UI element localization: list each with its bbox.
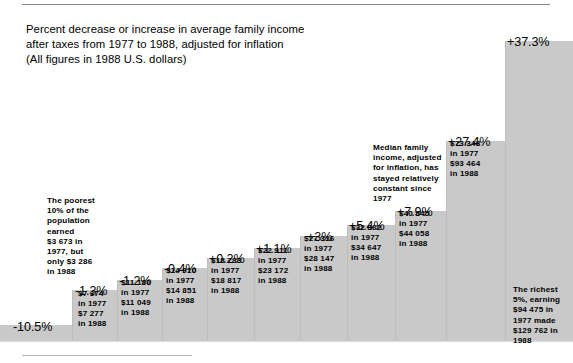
values-decile-4-line-4: in 1988 xyxy=(166,296,196,306)
pct-label-richest-5pct: +37.3% xyxy=(507,35,549,49)
annotation-richest-line-6: 1988 xyxy=(513,336,569,346)
values-decile-6-line-1: $22 911 xyxy=(258,246,288,256)
values-decile-7-line-4: in 1988 xyxy=(304,264,334,274)
annotation-poorest-line-7: only $3 286 xyxy=(47,257,109,267)
values-decile-8-line-2: in 1977 xyxy=(351,233,381,243)
chart-title-line-1: Percent decrease or increase in average … xyxy=(26,22,446,37)
annotation-median-line-4: stayed relatively xyxy=(373,174,459,184)
values-decile-9-line-1: $40 845 xyxy=(399,209,429,219)
values-decile-6-line-4: in 1988 xyxy=(258,276,288,286)
values-decile-2-line-1: $7 374 xyxy=(78,289,107,299)
top-divider xyxy=(22,4,550,5)
values-decile-3-line-1: $11 180 xyxy=(121,278,151,288)
annotation-median-line-6: 1977 xyxy=(373,194,459,204)
plot-baseline xyxy=(0,341,573,342)
values-decile-7-line-2: in 1977 xyxy=(304,244,334,254)
values-decile-6-line-3: $23 172 xyxy=(258,266,288,276)
values-decile-5-line-2: in 1977 xyxy=(211,266,241,276)
values-decile-8-line-1: $32 862 xyxy=(351,223,381,233)
annotation-poorest-line-8: in 1988 xyxy=(47,267,109,277)
values-decile-4: $14 910 in 1977 $14 851 in 1988 xyxy=(166,266,196,306)
values-decile-2-line-2: in 1977 xyxy=(78,299,107,309)
values-decile-8: $32 862 in 1977 $34 647 in 1988 xyxy=(351,223,381,263)
annotation-median-line-5: constant since xyxy=(373,184,459,194)
values-decile-4-line-1: $14 910 xyxy=(166,266,196,276)
values-decile-5-line-3: $18 817 xyxy=(211,276,241,286)
annotation-richest-5pct: The richest 5%, earning $94 475 in 1977 … xyxy=(513,285,569,346)
chart-title-line-3: (All figures in 1988 U.S. dollars) xyxy=(26,52,446,67)
values-decile-4-line-2: in 1977 xyxy=(166,276,196,286)
annotation-median-line-1: Median family xyxy=(373,143,459,153)
values-decile-6: $22 911 in 1977 $23 172 in 1988 xyxy=(258,246,288,286)
chart-title-line-2: after taxes from 1977 to 1988, adjusted … xyxy=(26,37,446,52)
annotation-poorest-line-3: population xyxy=(47,216,109,226)
values-decile-4-line-3: $14 851 xyxy=(166,286,196,296)
values-decile-5: $18 783 in 1977 $18 817 in 1988 xyxy=(211,256,241,296)
bottom-divider xyxy=(22,355,192,356)
chart-figure: Percent decrease or increase in average … xyxy=(0,0,573,363)
annotation-poorest-line-4: earned xyxy=(47,227,109,237)
values-decile-7: $27 316 in 1977 $28 147 in 1988 xyxy=(304,234,334,274)
annotation-poorest-line-2: 10% of the xyxy=(47,206,109,216)
values-decile-3-line-3: $11 049 xyxy=(121,298,151,308)
values-decile-9: $40 845 in 1977 $44 058 in 1988 xyxy=(399,209,429,249)
annotation-poorest-line-6: 1977, but xyxy=(47,247,109,257)
values-decile-3-line-2: in 1977 xyxy=(121,288,151,298)
annotation-richest-line-2: 5%, earning xyxy=(513,295,569,305)
annotation-median-line-3: for inflation, has xyxy=(373,163,459,173)
annotation-richest-line-4: 1977 made xyxy=(513,316,569,326)
annotation-richest-line-1: The richest xyxy=(513,285,569,295)
values-decile-5-line-1: $18 783 xyxy=(211,256,241,266)
pct-label-poorest-10pct: -10.5% xyxy=(13,320,52,334)
values-decile-2-line-3: $7 277 xyxy=(78,309,107,319)
values-decile-9-line-2: in 1977 xyxy=(399,219,429,229)
annotation-poorest-line-1: The poorest xyxy=(47,196,109,206)
values-decile-7-line-3: $28 147 xyxy=(304,254,334,264)
values-decile-8-line-4: in 1988 xyxy=(351,253,381,263)
values-decile-3: $11 180 in 1977 $11 049 in 1988 xyxy=(121,278,151,318)
values-decile-6-line-2: in 1977 xyxy=(258,256,288,266)
values-decile-2-line-4: in 1988 xyxy=(78,319,107,329)
values-decile-8-line-3: $34 647 xyxy=(351,243,381,253)
annotation-median-income: Median family income, adjusted for infla… xyxy=(373,143,459,204)
values-decile-7-line-1: $27 316 xyxy=(304,234,334,244)
values-decile-2: $7 374 in 1977 $7 277 in 1988 xyxy=(78,289,107,329)
annotation-median-line-2: income, adjusted xyxy=(373,153,459,163)
annotation-poorest-10pct: The poorest 10% of the population earned… xyxy=(47,196,109,278)
annotation-poorest-line-5: $3 673 in xyxy=(47,237,109,247)
values-decile-9-line-3: $44 058 xyxy=(399,229,429,239)
values-decile-9-line-4: in 1988 xyxy=(399,239,429,249)
chart-title: Percent decrease or increase in average … xyxy=(26,22,446,68)
values-decile-3-line-4: in 1988 xyxy=(121,308,151,318)
annotation-richest-line-3: $94 475 in xyxy=(513,305,569,315)
annotation-richest-line-5: $129 762 in xyxy=(513,326,569,336)
values-decile-5-line-4: in 1988 xyxy=(211,286,241,296)
